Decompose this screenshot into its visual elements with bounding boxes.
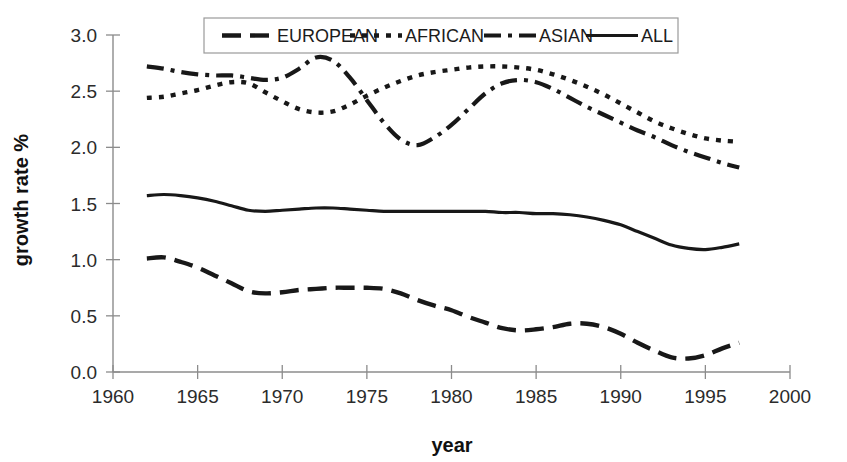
x-tick-label: 1980 bbox=[430, 386, 472, 407]
y-tick-label: 2.5 bbox=[71, 81, 97, 102]
y-tick-label: 2.0 bbox=[71, 137, 97, 158]
x-axis-group: 196019651970197519801985199019952000 bbox=[92, 365, 811, 407]
x-tick-label: 1985 bbox=[515, 386, 557, 407]
series-line-european bbox=[147, 257, 739, 358]
chart-legend: EUROPEANAFRICANASIANALL bbox=[204, 18, 678, 53]
x-tick-label: 1960 bbox=[92, 386, 134, 407]
y-tick-label: 0.0 bbox=[71, 362, 97, 383]
x-tick-label: 1965 bbox=[176, 386, 218, 407]
y-axis-title: growth rate % bbox=[10, 134, 32, 266]
chart-canvas: 0.00.51.01.52.02.53.0 196019651970197519… bbox=[0, 0, 847, 462]
x-tick-label: 1995 bbox=[684, 386, 726, 407]
growth-rate-line-chart: 0.00.51.01.52.02.53.0 196019651970197519… bbox=[0, 0, 847, 462]
y-tick-label: 1.0 bbox=[71, 250, 97, 271]
legend-label-african[interactable]: AFRICAN bbox=[405, 26, 484, 46]
series-line-all bbox=[147, 195, 739, 250]
series-line-african bbox=[147, 66, 739, 141]
y-tick-label: 0.5 bbox=[71, 306, 97, 327]
x-axis-title: year bbox=[431, 434, 472, 456]
x-tick-label: 1990 bbox=[600, 386, 642, 407]
legend-label-asian[interactable]: ASIAN bbox=[539, 26, 593, 46]
y-tick-label: 1.5 bbox=[71, 194, 97, 215]
x-tick-label: 1970 bbox=[261, 386, 303, 407]
x-tick-label: 2000 bbox=[769, 386, 811, 407]
y-tick-label: 3.0 bbox=[71, 25, 97, 46]
y-axis-group: 0.00.51.01.52.02.53.0 bbox=[71, 25, 120, 383]
x-tick-label: 1975 bbox=[346, 386, 388, 407]
series-group bbox=[147, 57, 739, 359]
series-line-asian bbox=[147, 57, 739, 168]
legend-label-all[interactable]: ALL bbox=[641, 26, 673, 46]
